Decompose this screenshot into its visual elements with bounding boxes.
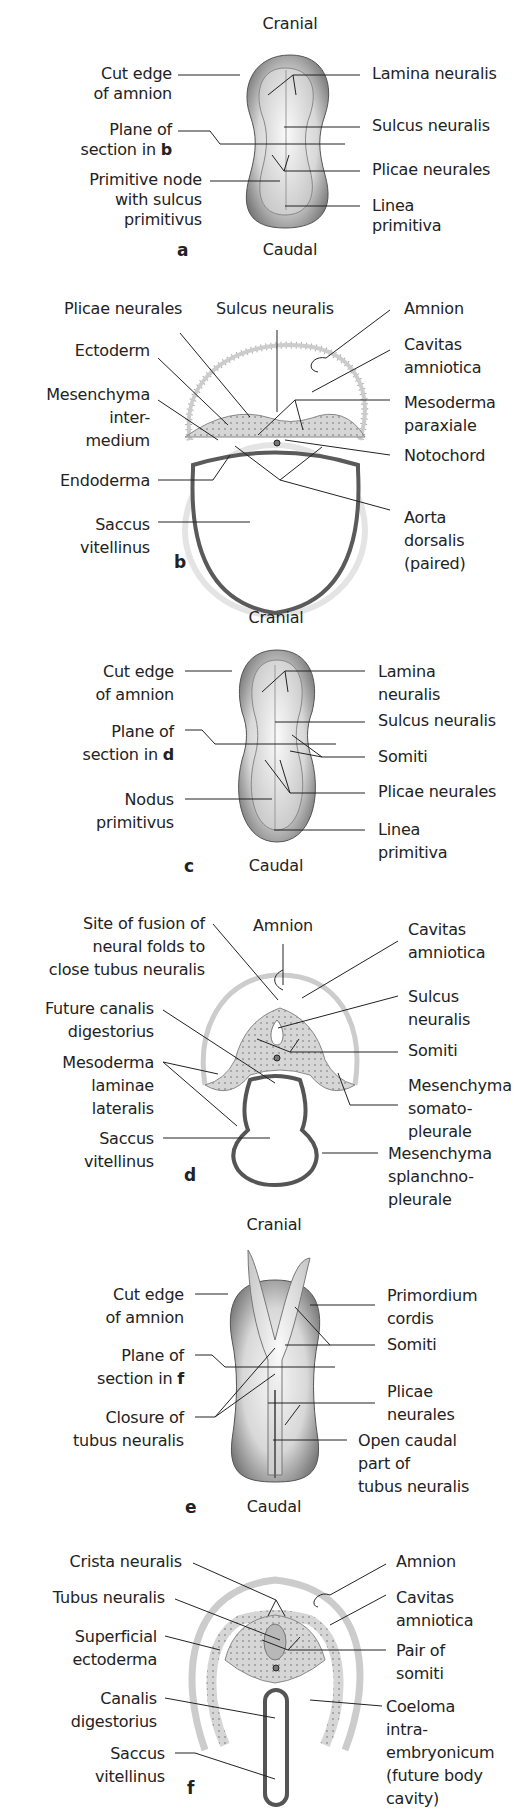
- label-a-plicae-neurales: Plicae neurales: [372, 160, 490, 180]
- label-c-lamina-neuralis: Lamina neuralis: [378, 660, 440, 706]
- label-e-plane-of-section: Plane of section in f: [97, 1344, 184, 1390]
- label-b-notochord: Notochord: [404, 446, 485, 466]
- label-d-cavitas-amniotica: Cavitas amniotica: [408, 918, 485, 964]
- label-b-ectoderm: Ectoderm: [75, 341, 150, 361]
- label-f-saccus-vitellinus: Saccus vitellinus: [95, 1742, 165, 1788]
- label-e-plane-ref: f: [177, 1369, 184, 1388]
- label-c-plane-text: Plane of section in: [83, 722, 174, 764]
- panel-f-cross-section: [165, 1563, 386, 1805]
- label-a-plane-ref: b: [161, 140, 172, 159]
- panel-letter-e: e: [185, 1497, 197, 1517]
- label-e-somiti: Somiti: [387, 1335, 437, 1355]
- label-b-saccus-vitellinus: Saccus vitellinus: [80, 513, 150, 559]
- label-a-caudal: Caudal: [250, 240, 330, 260]
- label-f-cavitas-amniotica: Cavitas amniotica: [396, 1586, 473, 1632]
- label-b-mesoderma-paraxiale: Mesoderma paraxiale: [404, 391, 496, 437]
- label-b-amnion: Amnion: [404, 299, 464, 319]
- label-d-somiti: Somiti: [408, 1041, 458, 1061]
- label-a-plane-text: Plane of section in: [81, 120, 172, 159]
- panel-letter-c: c: [184, 856, 194, 876]
- label-c-plane-ref: d: [163, 745, 174, 764]
- label-d-sulcus-neuralis: Sulcus neuralis: [408, 985, 470, 1031]
- label-d-mesenchyma-somatopleurale: Mesenchyma somato- pleurale: [408, 1074, 512, 1143]
- label-a-lamina-neuralis: Lamina neuralis: [372, 64, 497, 84]
- panel-b-cross-section: [158, 310, 390, 615]
- label-c-cranial: Cranial: [236, 608, 316, 628]
- label-c-caudal: Caudal: [236, 856, 316, 876]
- label-f-tubus-neuralis: Tubus neuralis: [53, 1588, 165, 1608]
- label-f-pair-of-somiti: Pair of somiti: [396, 1639, 445, 1685]
- label-f-amnion: Amnion: [396, 1552, 456, 1572]
- label-f-crista-neuralis: Crista neuralis: [70, 1552, 182, 1572]
- label-c-sulcus-neuralis: Sulcus neuralis: [378, 711, 496, 731]
- label-b-mesenchyma-intermedium: Mesenchyma inter- medium: [46, 383, 150, 452]
- label-b-plicae-neurales: Plicae neurales: [64, 299, 182, 319]
- label-e-primordium-cordis: Primordium cordis: [387, 1284, 477, 1330]
- label-e-plicae-neurales: Plicae neurales: [387, 1380, 455, 1426]
- panel-e-embryo: [195, 1250, 375, 1482]
- label-f-coeloma-intraembryonicum: Coeloma intra- embryonicum (future body …: [386, 1695, 494, 1809]
- diagram-artwork: [0, 0, 527, 1809]
- label-b-aorta-dorsalis: Aorta dorsalis (paired): [404, 506, 466, 575]
- label-c-plicae-neurales: Plicae neurales: [378, 782, 496, 802]
- label-a-cranial: Cranial: [250, 14, 330, 34]
- label-d-future-canalis-digestorius: Future canalis digestorius: [45, 997, 154, 1043]
- panel-c-embryo: [185, 650, 365, 842]
- label-c-plane-of-section: Plane of section in d: [83, 720, 174, 766]
- label-e-plane-text: Plane of section in: [97, 1346, 184, 1388]
- label-c-linea-primitiva: Linea primitiva: [378, 818, 447, 864]
- label-a-sulcus-neuralis: Sulcus neuralis: [372, 116, 490, 136]
- label-d-saccus-vitellinus: Saccus vitellinus: [84, 1127, 154, 1173]
- label-a-plane-of-section: Plane of section in b: [81, 120, 172, 160]
- label-e-caudal: Caudal: [234, 1497, 314, 1517]
- label-a-linea-primitiva: Linea primitiva: [372, 196, 441, 236]
- label-e-closure-tubus-neuralis: Closure of tubus neuralis: [73, 1406, 184, 1452]
- label-d-site-of-fusion: Site of fusion of neural folds to close …: [49, 912, 205, 981]
- label-c-cut-edge-amnion: Cut edge of amnion: [95, 660, 174, 706]
- label-d-mesenchyma-splanchnopleurale: Mesenchyma splanchno- pleurale: [388, 1142, 492, 1211]
- panel-letter-b: b: [174, 552, 186, 572]
- label-a-primitive-node: Primitive node with sulcus primitivus: [89, 170, 202, 230]
- label-c-somiti: Somiti: [378, 747, 428, 767]
- label-e-cut-edge-amnion: Cut edge of amnion: [105, 1283, 184, 1329]
- panel-letter-f: f: [187, 1778, 194, 1798]
- panel-letter-d: d: [184, 1165, 196, 1185]
- label-b-endoderma: Endoderma: [60, 471, 150, 491]
- label-f-superficial-ectoderma: Superficial ectoderma: [72, 1625, 157, 1671]
- label-e-open-caudal-part: Open caudal part of tubus neuralis: [358, 1429, 469, 1498]
- label-f-canalis-digestorius: Canalis digestorius: [71, 1687, 157, 1733]
- label-d-mesoderma-laminae-lateralis: Mesoderma laminae lateralis: [62, 1051, 154, 1120]
- label-b-sulcus-neuralis: Sulcus neuralis: [216, 299, 334, 319]
- label-e-cranial: Cranial: [234, 1215, 314, 1235]
- panel-letter-a: a: [177, 240, 188, 260]
- label-d-amnion: Amnion: [243, 916, 323, 936]
- panel-a-embryo: [178, 55, 360, 228]
- label-c-nodus-primitivus: Nodus primitivus: [96, 788, 174, 834]
- label-b-cavitas-amniotica: Cavitas amniotica: [404, 333, 481, 379]
- label-a-cut-edge-amnion: Cut edge of amnion: [93, 64, 172, 104]
